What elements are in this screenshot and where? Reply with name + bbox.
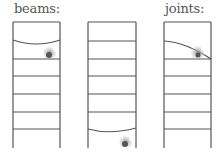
fire-icon (191, 45, 204, 58)
fire-icon (119, 135, 132, 147)
frame-1 (13, 22, 60, 148)
frame-3 (164, 22, 211, 148)
sagging-beam (13, 40, 60, 44)
sagging-beam (88, 128, 136, 132)
frame-2 (88, 22, 136, 148)
fire-icon (43, 46, 56, 58)
failed-joint-beam (164, 41, 211, 59)
structure-diagram (0, 0, 216, 152)
